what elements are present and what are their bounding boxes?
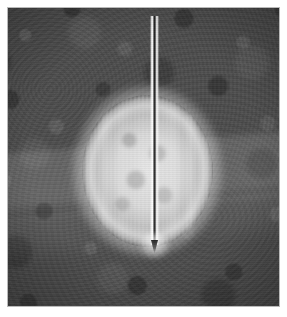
radiographic-image-plate xyxy=(8,8,279,306)
needle-shaft xyxy=(150,16,159,245)
figure-root xyxy=(0,0,287,317)
needle xyxy=(150,16,159,245)
spherical-specimen xyxy=(82,95,213,247)
specimen-rim xyxy=(82,95,213,247)
